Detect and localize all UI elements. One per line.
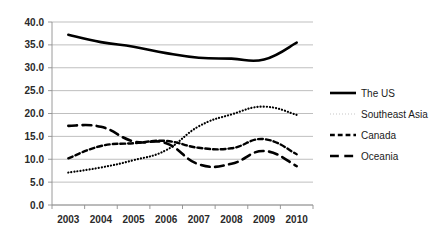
x-axis-tick-labels: 20032004200520062007200820092010 [57, 214, 308, 225]
chart-axes [48, 22, 313, 209]
y-tick-label: 10.0 [25, 154, 45, 165]
legend-label: Southeast Asia [361, 109, 428, 120]
legend-label: The US [361, 88, 395, 99]
legend-label: Canada [361, 130, 396, 141]
legend-item-oceania[interactable]: Oceania [330, 151, 399, 162]
legend-item-the-us[interactable]: The US [330, 88, 395, 99]
legend-item-canada[interactable]: Canada [330, 130, 396, 141]
y-axis-tick-labels: 0.05.010.015.020.025.030.035.040.0 [25, 17, 45, 211]
legend-item-southeast-asia[interactable]: Southeast Asia [330, 109, 428, 120]
line-chart: 0.05.010.015.020.025.030.035.040.0 20032… [0, 0, 441, 242]
y-tick-label: 20.0 [25, 108, 45, 119]
chart-legend: The USSoutheast AsiaCanadaOceania [330, 88, 428, 162]
legend-label: Oceania [361, 151, 399, 162]
x-tick-label: 2008 [220, 214, 243, 225]
x-tick-label: 2005 [122, 214, 145, 225]
series-line-the-us [68, 35, 296, 61]
x-tick-label: 2006 [155, 214, 178, 225]
y-tick-label: 25.0 [25, 85, 45, 96]
gridlines [52, 22, 313, 205]
data-series [68, 35, 296, 173]
y-tick-label: 35.0 [25, 39, 45, 50]
y-tick-label: 5.0 [30, 177, 44, 188]
x-tick-label: 2007 [188, 214, 211, 225]
x-tick-label: 2010 [286, 214, 309, 225]
x-tick-label: 2009 [253, 214, 276, 225]
y-tick-label: 40.0 [25, 17, 45, 28]
x-tick-label: 2003 [57, 214, 80, 225]
y-tick-label: 0.0 [30, 200, 44, 211]
y-tick-label: 15.0 [25, 131, 45, 142]
y-tick-label: 30.0 [25, 62, 45, 73]
chart-canvas: 0.05.010.015.020.025.030.035.040.0 20032… [0, 0, 441, 242]
x-tick-label: 2004 [90, 214, 113, 225]
